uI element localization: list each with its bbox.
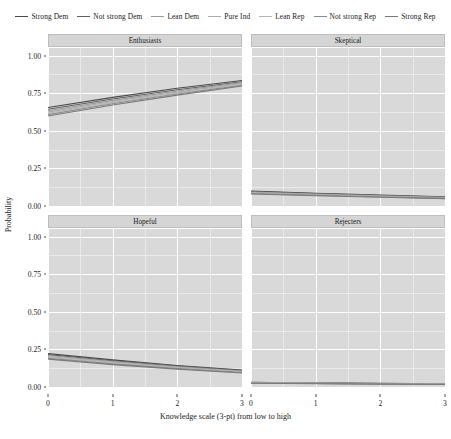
y-axis-tick-label: 0.25 bbox=[1, 345, 41, 354]
y-axis-tick-mark bbox=[44, 93, 47, 94]
x-axis: 01230123 bbox=[48, 394, 447, 410]
y-axis-tick-mark bbox=[44, 311, 47, 312]
legend-key-line-icon bbox=[259, 16, 272, 18]
x-axis-tick-mark bbox=[445, 394, 446, 397]
series-layer bbox=[48, 229, 242, 387]
series-layer bbox=[48, 48, 242, 206]
legend-key-line-icon bbox=[385, 16, 398, 18]
y-axis-tick-label: 0.50 bbox=[1, 126, 41, 135]
legend-item: Pure Ind bbox=[208, 12, 250, 21]
facet-plot-region bbox=[251, 48, 445, 206]
x-axis-tick-mark bbox=[315, 394, 316, 397]
legend-key-line-icon bbox=[314, 16, 327, 18]
y-axis-tick-label: 0.00 bbox=[1, 202, 41, 211]
legend-label: Lean Rep bbox=[275, 12, 304, 21]
x-axis-tick-label: 0 bbox=[249, 399, 253, 408]
facet-panel: Enthusiasts bbox=[48, 34, 242, 206]
plot-area: Probability 0.000.000.250.250.500.500.75… bbox=[0, 34, 451, 439]
y-axis-tick-label: 0.00 bbox=[1, 383, 41, 392]
x-axis-tick-label: 2 bbox=[378, 399, 382, 408]
x-axis-tick-mark bbox=[251, 394, 252, 397]
facet-strip-label: Hopeful bbox=[48, 215, 242, 228]
legend-key-line-icon bbox=[151, 16, 164, 18]
y-axis-tick-mark bbox=[44, 130, 47, 131]
legend-item: Not strong Rep bbox=[314, 12, 377, 21]
legend-label: Strong Rep bbox=[401, 12, 435, 21]
x-axis-tick-mark bbox=[380, 394, 381, 397]
y-axis-tick-mark bbox=[44, 274, 47, 275]
legend-key-line-icon bbox=[15, 16, 28, 18]
legend-label: Lean Dem bbox=[167, 12, 199, 21]
legend-item: Lean Rep bbox=[259, 12, 304, 21]
y-axis-tick-label: 0.25 bbox=[1, 164, 41, 173]
y-axis-tick-mark bbox=[44, 168, 47, 169]
x-axis-tick-mark bbox=[177, 394, 178, 397]
facet-panel: Skeptical bbox=[251, 34, 445, 206]
x-axis-group: 0123 bbox=[48, 394, 242, 410]
x-axis-title: Knowledge scale (3-pt) from low to high bbox=[0, 412, 451, 421]
x-axis-tick-mark bbox=[242, 394, 243, 397]
x-axis-tick-label: 0 bbox=[46, 399, 50, 408]
legend-key-line-icon bbox=[77, 16, 90, 18]
facet-grid: EnthusiastsSkepticalHopefulRejecters bbox=[48, 34, 447, 394]
legend-item: Not strong Dem bbox=[77, 12, 142, 21]
series-layer bbox=[251, 48, 445, 206]
y-axis-tick-label: 1.00 bbox=[1, 51, 41, 60]
legend-item: Lean Dem bbox=[151, 12, 199, 21]
y-axis-tick-label: 1.00 bbox=[1, 232, 41, 241]
y-axis-tick-label: 0.75 bbox=[1, 270, 41, 279]
facet-plot-region bbox=[48, 229, 242, 387]
y-axis-tick-mark bbox=[44, 206, 47, 207]
facet-panel: Rejecters bbox=[251, 215, 445, 387]
facet-strip-label: Enthusiasts bbox=[48, 34, 242, 47]
legend-label: Not strong Dem bbox=[93, 12, 142, 21]
x-axis-tick-label: 1 bbox=[314, 399, 318, 408]
legend-label: Strong Dem bbox=[31, 12, 68, 21]
facet-plot-region bbox=[251, 229, 445, 387]
series-layer bbox=[251, 229, 445, 387]
facet-strip-label: Rejecters bbox=[251, 215, 445, 228]
legend-item: Strong Dem bbox=[15, 12, 68, 21]
facet-plot-region bbox=[48, 48, 242, 206]
x-axis-group: 0123 bbox=[251, 394, 445, 410]
x-axis-tick-label: 3 bbox=[443, 399, 447, 408]
legend-label: Not strong Rep bbox=[330, 12, 377, 21]
legend-key-line-icon bbox=[208, 16, 221, 18]
x-axis-tick-label: 3 bbox=[240, 399, 244, 408]
y-axis-tick-mark bbox=[44, 236, 47, 237]
y-axis-tick-label: 0.50 bbox=[1, 307, 41, 316]
facet-strip-label: Skeptical bbox=[251, 34, 445, 47]
legend-label: Pure Ind bbox=[224, 12, 250, 21]
x-axis-tick-mark bbox=[112, 394, 113, 397]
y-axis-tick-mark bbox=[44, 387, 47, 388]
facet-panel: Hopeful bbox=[48, 215, 242, 387]
chart-root: Strong DemNot strong DemLean DemPure Ind… bbox=[0, 0, 451, 439]
x-axis-tick-label: 1 bbox=[111, 399, 115, 408]
x-axis-tick-mark bbox=[48, 394, 49, 397]
y-axis-tick-label: 0.75 bbox=[1, 89, 41, 98]
legend-item: Strong Rep bbox=[385, 12, 435, 21]
x-axis-tick-label: 2 bbox=[175, 399, 179, 408]
y-axis: 0.000.000.250.250.500.500.750.751.001.00 bbox=[0, 34, 46, 394]
chart-legend: Strong DemNot strong DemLean DemPure Ind… bbox=[0, 12, 451, 21]
y-axis-tick-mark bbox=[44, 349, 47, 350]
series-line bbox=[48, 86, 242, 116]
y-axis-tick-mark bbox=[44, 55, 47, 56]
